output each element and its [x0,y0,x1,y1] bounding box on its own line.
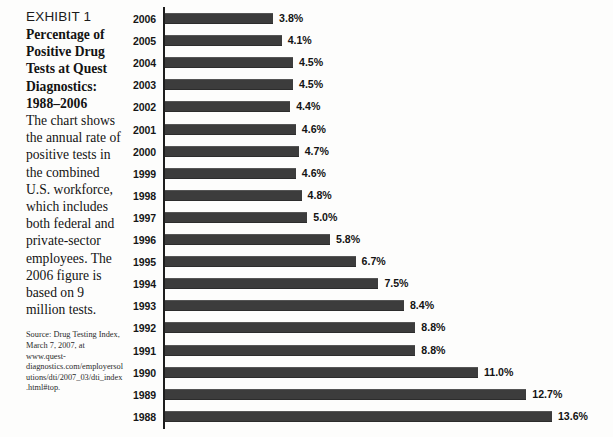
bar-value-label: 12.7% [532,388,562,400]
bar [165,13,273,24]
year-label: 1998 [120,190,156,202]
bar-value-label: 4.5% [299,56,323,68]
bar [165,57,293,68]
bar-value-label: 4.5% [299,78,323,90]
year-label: 1996 [120,234,156,246]
bar-value-label: 4.7% [305,145,329,157]
year-label: 1995 [120,256,156,268]
bar [165,146,299,157]
bar-value-label: 13.6% [558,410,588,422]
year-label: 1992 [120,322,156,334]
exhibit-page: EXHIBIT 1 Percentage of Positive Drug Te… [0,0,613,437]
bar-row: 198813.6% [0,406,613,428]
bar [165,212,307,223]
bar-value-label: 8.8% [421,344,445,356]
bar [165,300,404,311]
bar [165,256,356,267]
bar-value-label: 4.6% [302,123,326,135]
bar [165,411,552,422]
bar-value-label: 5.0% [313,211,337,223]
bar-value-label: 4.6% [302,167,326,179]
bar-row: 20004.7% [0,141,613,163]
year-label: 2001 [120,124,156,136]
year-label: 1988 [120,411,156,423]
bar [165,234,330,245]
bar-row: 20054.1% [0,30,613,52]
bar [165,79,293,90]
bar [165,322,415,333]
bar-row: 19994.6% [0,163,613,185]
bar-row: 19928.8% [0,317,613,339]
bar-value-label: 4.1% [288,34,312,46]
bar [165,101,290,112]
bar [165,35,282,46]
year-label: 2005 [120,35,156,47]
year-label: 2000 [120,146,156,158]
bar-row: 19918.8% [0,340,613,362]
bar-row: 20014.6% [0,119,613,141]
year-label: 2004 [120,57,156,69]
bar-value-label: 11.0% [484,366,513,378]
bar-row: 20024.4% [0,96,613,118]
bar-row: 20034.5% [0,74,613,96]
bar-value-label: 8.8% [421,321,445,333]
bar-row: 19965.8% [0,229,613,251]
bar-value-label: 4.8% [308,189,332,201]
bar [165,389,526,400]
year-label: 1994 [120,278,156,290]
bar [165,168,296,179]
bar-value-label: 8.4% [410,299,434,311]
year-label: 2006 [120,13,156,25]
bar-row: 19947.5% [0,273,613,295]
bar [165,278,378,289]
bar-row: 199011.0% [0,362,613,384]
year-label: 2003 [120,79,156,91]
bar-value-label: 7.5% [384,277,408,289]
bar-value-label: 5.8% [336,233,360,245]
year-label: 1993 [120,300,156,312]
year-label: 1989 [120,389,156,401]
year-label: 1990 [120,367,156,379]
bar-value-label: 6.7% [362,255,386,267]
bar [165,124,296,135]
bar [165,367,478,378]
bar-row: 19956.7% [0,251,613,273]
bar-value-label: 3.8% [279,12,303,24]
bar-value-label: 4.4% [296,100,320,112]
bar-row: 19975.0% [0,207,613,229]
year-label: 1997 [120,212,156,224]
year-label: 1999 [120,168,156,180]
bar [165,345,415,356]
bar-row: 198912.7% [0,384,613,406]
year-label: 1991 [120,345,156,357]
year-label: 2002 [120,101,156,113]
bar-row: 19938.4% [0,295,613,317]
bar-row: 20063.8% [0,8,613,30]
bar-row: 20044.5% [0,52,613,74]
bar [165,190,302,201]
bar-row: 19984.8% [0,185,613,207]
bar-chart: 20063.8%20054.1%20044.5%20034.5%20024.4%… [0,0,613,437]
